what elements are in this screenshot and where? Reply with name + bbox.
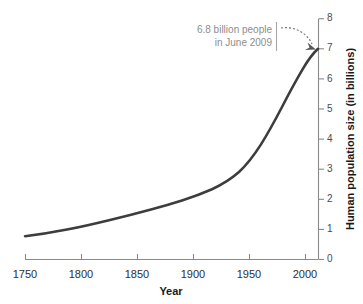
- annotation-arrow-head: [305, 43, 316, 51]
- chart-plot-area: 1750 1800 1850 1900 1950 2000 0 1 2 3 4 …: [0, 0, 363, 304]
- x-tick-label-1900: 1900: [181, 268, 205, 280]
- y-tick-label-1: 1: [327, 223, 333, 234]
- y-tick-label-2: 2: [327, 193, 333, 204]
- y-tick-label-0: 0: [327, 253, 333, 264]
- y-tick-label-7: 7: [327, 42, 333, 53]
- y-axis-title: Human population size (in billions): [344, 48, 356, 230]
- annotation-arrow-arc: [281, 28, 312, 44]
- y-tick-label-6: 6: [327, 73, 333, 84]
- y-tick-label-8: 8: [327, 12, 333, 23]
- population-growth-chart: 1750 1800 1850 1900 1950 2000 0 1 2 3 4 …: [0, 0, 363, 304]
- x-tick-label-1950: 1950: [237, 268, 261, 280]
- x-tick-label-1800: 1800: [69, 268, 93, 280]
- y-axis-ticks: [319, 19, 325, 260]
- y-tick-label-4: 4: [327, 133, 333, 144]
- x-axis-ticks: [26, 254, 306, 260]
- y-tick-label-5: 5: [327, 103, 333, 114]
- x-tick-label-2000: 2000: [293, 268, 317, 280]
- x-axis-title: Year: [159, 285, 183, 297]
- x-tick-label-1850: 1850: [125, 268, 149, 280]
- annotation-line-1: 6.8 billion people: [197, 24, 272, 35]
- y-tick-label-3: 3: [327, 163, 333, 174]
- annotation-line-2: in June 2009: [215, 37, 273, 48]
- population-curve: [25, 49, 318, 236]
- x-tick-label-1750: 1750: [13, 268, 37, 280]
